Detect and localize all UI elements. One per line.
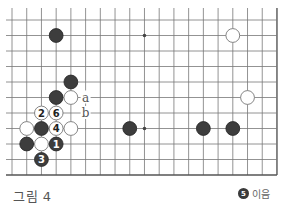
- white-stone: [64, 122, 78, 136]
- go-board: ab26413: [0, 0, 289, 182]
- move-number-4: 4: [53, 123, 60, 134]
- move-number-1: 1: [53, 139, 60, 150]
- legend-text: 이음: [252, 186, 270, 201]
- black-stone: [196, 122, 210, 136]
- black-stone: [123, 122, 137, 136]
- black-stone-icon: 5: [238, 188, 249, 199]
- white-stone: [226, 29, 240, 43]
- move-number-2: 2: [38, 108, 45, 119]
- move-number-6: 6: [53, 108, 60, 119]
- move-number-3: 3: [38, 154, 45, 165]
- figure-caption: 그림 4: [13, 186, 51, 205]
- star-point: [143, 127, 147, 131]
- star-point: [143, 34, 147, 38]
- black-stone: [35, 122, 49, 136]
- white-stone: [20, 122, 34, 136]
- black-stone: [20, 137, 34, 151]
- point-marker-b: b: [82, 106, 90, 120]
- point-marker-a: a: [82, 91, 89, 105]
- black-stone: [49, 29, 63, 43]
- white-stone: [241, 91, 255, 105]
- move-legend: 5 이음: [238, 186, 270, 201]
- black-stone: [64, 75, 78, 89]
- black-stone: [49, 91, 63, 105]
- white-stone: [35, 137, 49, 151]
- white-stone: [64, 91, 78, 105]
- black-stone: [226, 122, 240, 136]
